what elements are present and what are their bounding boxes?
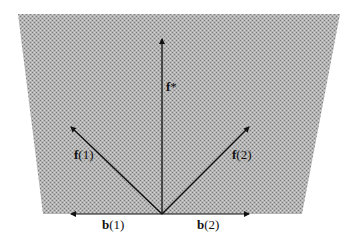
shaded-region <box>18 14 340 214</box>
vector-diagram: f* f(1) f(2) b(1) b(2) <box>0 0 356 242</box>
label-f2: f(2) <box>232 147 252 162</box>
label-f1: f(1) <box>74 147 94 162</box>
label-b2: b(2) <box>197 217 219 232</box>
vector-b1: b(1) <box>71 214 162 232</box>
label-f-star: f* <box>166 79 177 94</box>
label-b1: b(1) <box>102 217 124 232</box>
vector-b2: b(2) <box>162 214 249 232</box>
